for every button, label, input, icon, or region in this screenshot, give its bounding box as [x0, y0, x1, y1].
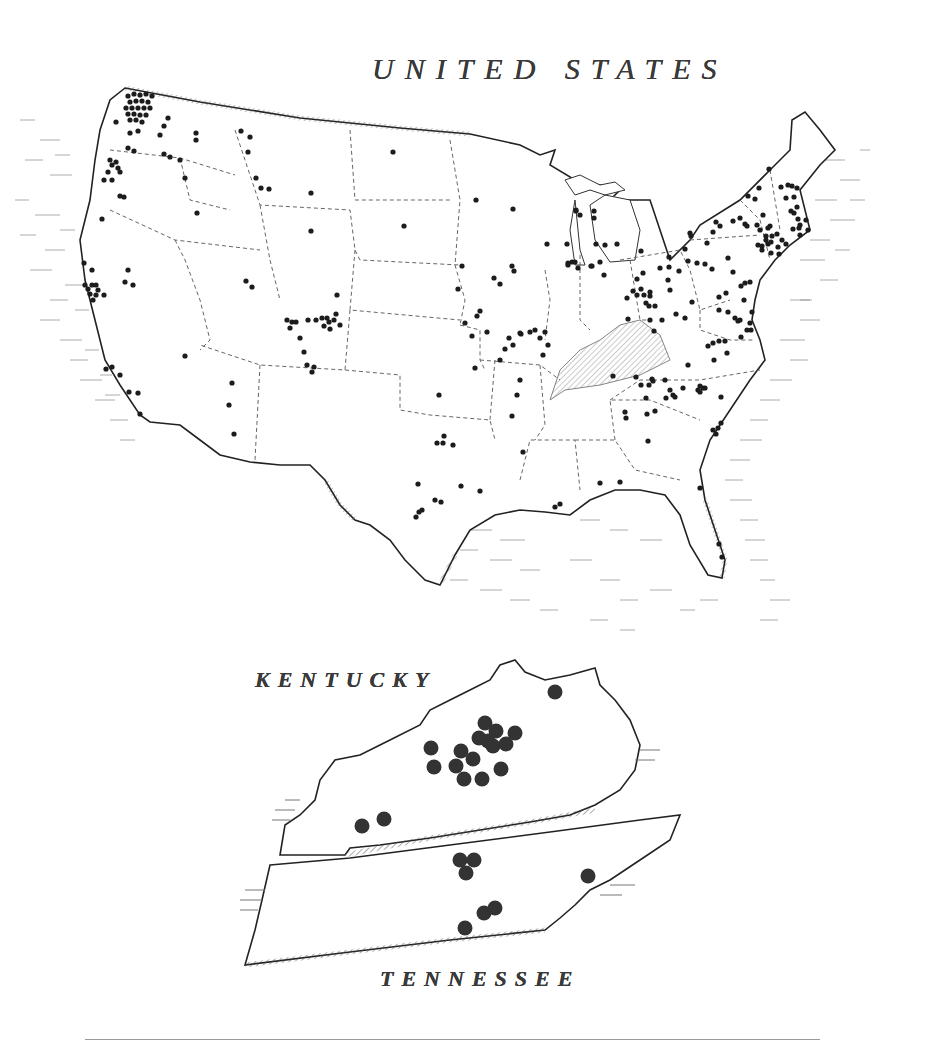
- location-dot: [752, 196, 757, 201]
- location-dot: [789, 183, 794, 188]
- location-dot: [657, 265, 662, 270]
- location-dot: [249, 284, 254, 289]
- location-dot: [93, 292, 98, 297]
- location-dot: [662, 377, 667, 382]
- location-dot: [718, 420, 723, 425]
- location-dot: [287, 325, 292, 330]
- location-dot: [697, 383, 702, 388]
- location-dot: [685, 362, 690, 367]
- location-dot: [624, 295, 629, 300]
- location-dot: [738, 334, 743, 339]
- location-dot: [744, 223, 749, 228]
- location-dot: [630, 288, 635, 293]
- location-dot: [469, 333, 474, 338]
- location-dot: [716, 541, 721, 546]
- location-dot: [716, 338, 721, 343]
- location-dot: [167, 154, 172, 159]
- location-dot: [647, 289, 652, 294]
- location-dot: [652, 408, 657, 413]
- location-dot: [113, 119, 118, 124]
- location-dot: [509, 263, 514, 268]
- location-dot: [125, 145, 130, 150]
- location-dot: [769, 233, 774, 238]
- location-dot: [775, 244, 780, 249]
- location-dot: [333, 311, 338, 316]
- location-dot: [424, 741, 439, 756]
- location-dot: [673, 311, 678, 316]
- location-dot: [589, 263, 594, 268]
- location-dot: [488, 901, 503, 916]
- location-dot: [763, 237, 768, 242]
- location-dot: [794, 185, 799, 190]
- location-dot: [229, 380, 234, 385]
- location-dot: [715, 425, 720, 430]
- location-dot: [765, 225, 770, 230]
- location-dot: [497, 281, 502, 286]
- location-dot: [125, 93, 130, 98]
- location-dot: [455, 286, 460, 291]
- location-dot: [137, 411, 142, 416]
- location-dot: [117, 169, 122, 174]
- location-dot: [676, 268, 681, 273]
- location-dot: [331, 317, 336, 322]
- location-dot: [651, 328, 656, 333]
- location-dot: [537, 335, 542, 340]
- location-dot: [527, 329, 532, 334]
- location-dot: [717, 223, 722, 228]
- location-dot: [640, 270, 645, 275]
- location-dot: [685, 258, 690, 263]
- location-dot: [472, 365, 477, 370]
- location-dot: [103, 366, 108, 371]
- location-dot: [474, 313, 479, 318]
- location-dot: [663, 395, 668, 400]
- location-dot: [161, 151, 166, 156]
- location-dot: [438, 499, 443, 504]
- location-dot: [497, 357, 502, 362]
- location-dot: [652, 303, 657, 308]
- location-dot: [511, 268, 516, 273]
- location-dot: [147, 105, 152, 110]
- location-dot: [301, 349, 306, 354]
- location-dot: [494, 762, 509, 777]
- location-dot: [449, 759, 464, 774]
- location-dot: [622, 409, 627, 414]
- location-dot: [713, 431, 718, 436]
- location-dot: [89, 267, 94, 272]
- location-dot: [194, 210, 199, 215]
- location-dot: [614, 241, 619, 246]
- location-dot: [334, 292, 339, 297]
- location-dot: [355, 819, 370, 834]
- location-dot: [794, 204, 799, 209]
- location-dot: [475, 772, 490, 787]
- location-dot: [432, 497, 437, 502]
- location-dot: [101, 177, 106, 182]
- location-dot: [131, 111, 136, 116]
- location-dot: [123, 105, 128, 110]
- location-dot: [581, 869, 596, 884]
- location-dot: [253, 175, 258, 180]
- location-dot: [754, 222, 759, 227]
- location-dot: [143, 91, 148, 96]
- location-dot: [415, 481, 420, 486]
- location-dot: [730, 218, 735, 223]
- location-dot: [139, 119, 144, 124]
- location-dot: [788, 208, 793, 213]
- location-dot: [783, 195, 788, 200]
- location-dot: [90, 297, 95, 302]
- location-dot: [149, 93, 154, 98]
- location-dot: [177, 157, 182, 162]
- location-dot: [540, 352, 545, 357]
- location-dot: [309, 369, 314, 374]
- location-dot: [284, 317, 289, 322]
- location-dot: [724, 350, 729, 355]
- location-dot: [689, 299, 694, 304]
- location-dot: [710, 229, 715, 234]
- location-dot: [135, 128, 140, 133]
- location-dot: [101, 292, 106, 297]
- location-dot: [436, 392, 441, 397]
- location-dot: [133, 98, 138, 103]
- location-dot: [122, 279, 127, 284]
- location-dot: [544, 241, 549, 246]
- location-dot: [85, 286, 90, 291]
- location-dot: [791, 194, 796, 199]
